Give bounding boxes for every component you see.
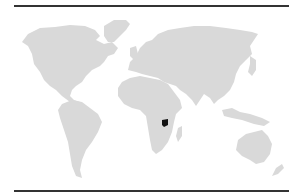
north-america xyxy=(22,25,118,110)
southeast-asia-islands xyxy=(222,108,270,126)
japan xyxy=(248,56,256,76)
bottom-rule xyxy=(14,190,289,192)
africa xyxy=(118,76,182,154)
world-map xyxy=(0,0,297,194)
new-zealand xyxy=(272,164,284,176)
greenland xyxy=(104,20,130,42)
south-america xyxy=(58,100,102,178)
australia xyxy=(236,130,272,164)
madagascar xyxy=(176,126,182,142)
